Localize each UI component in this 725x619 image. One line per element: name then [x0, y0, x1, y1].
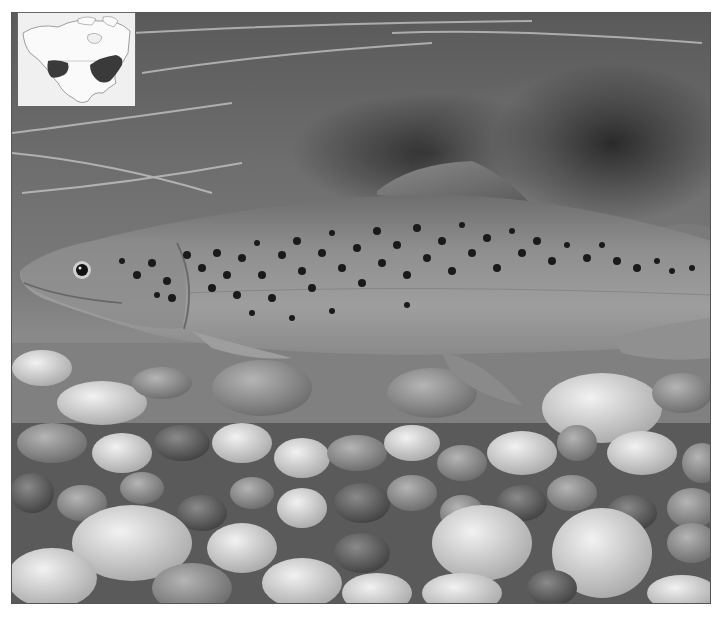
north-america-map [18, 13, 136, 107]
range-map-inset [17, 12, 136, 107]
